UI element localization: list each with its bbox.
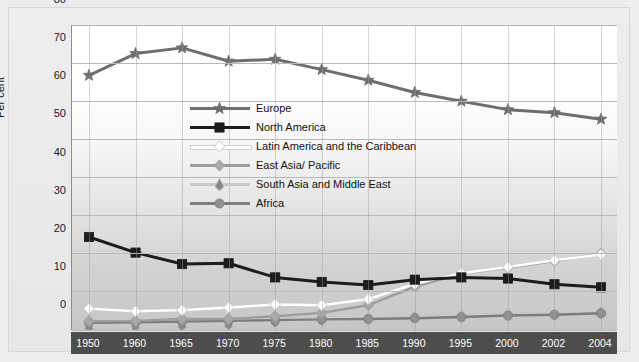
- y-tick-label: 80: [32, 0, 66, 5]
- legend-key-circle-icon: [190, 195, 250, 211]
- y-tick-label: 0: [32, 299, 66, 310]
- vertical-gridline: [136, 25, 137, 330]
- legend-label: North America: [250, 121, 326, 133]
- x-tick-label: 1975: [249, 336, 299, 350]
- x-tick-label: 1995: [435, 336, 485, 350]
- legend-item[interactable]: North America: [190, 117, 430, 136]
- legend-key-star-icon: [190, 100, 250, 116]
- legend-label: South Asia and Middle East: [250, 178, 391, 190]
- legend-key-square-icon: [190, 119, 250, 135]
- legend-key-diamond-icon: [190, 138, 250, 154]
- gridline: [72, 215, 617, 216]
- gridline: [72, 291, 617, 292]
- chart-figure: 01020304050607080 Per cent 1950196019651…: [0, 0, 639, 362]
- series-line: [89, 237, 601, 287]
- y-axis-title: Per cent: [0, 77, 6, 118]
- x-tick-label: 1965: [156, 336, 206, 350]
- series-north-america: [84, 232, 605, 292]
- vertical-gridline: [182, 25, 183, 330]
- vertical-gridline: [554, 25, 555, 330]
- x-tick-label: 1960: [110, 336, 160, 350]
- gridline: [72, 63, 617, 64]
- gridline: [72, 330, 617, 331]
- y-tick-label: 40: [32, 147, 66, 158]
- legend-label: Latin America and the Caribbean: [250, 140, 416, 152]
- x-tick-label: 1980: [296, 336, 346, 350]
- vertical-gridline: [461, 25, 462, 330]
- legend-item[interactable]: Latin America and the Caribbean: [190, 136, 430, 155]
- y-tick-label: 70: [32, 32, 66, 43]
- x-tick-label: 1990: [389, 336, 439, 350]
- y-tick-label: 20: [32, 223, 66, 234]
- x-tick-label: 2000: [482, 336, 532, 350]
- y-tick-label: 50: [32, 108, 66, 119]
- x-tick-label: 1950: [63, 336, 113, 350]
- vertical-gridline: [89, 25, 90, 330]
- series-line: [89, 313, 601, 323]
- x-tick-label: 2004: [575, 336, 625, 350]
- legend-label: Africa: [250, 197, 284, 209]
- legend-item[interactable]: South Asia and Middle East: [190, 174, 430, 193]
- legend-marker-icon: [212, 158, 227, 173]
- x-tick-label: 1985: [342, 336, 392, 350]
- legend-key-diamond-icon: [190, 157, 250, 173]
- legend-label: East Asia/ Pacific: [250, 159, 340, 171]
- vertical-gridline: [508, 25, 509, 330]
- legend-marker-icon: [212, 120, 227, 135]
- legend-marker-icon: [212, 177, 227, 192]
- legend-marker-icon: [212, 196, 227, 211]
- gridline: [72, 253, 617, 254]
- y-tick-label: 10: [32, 261, 66, 272]
- legend-item[interactable]: Europe: [190, 98, 430, 117]
- legend-item[interactable]: East Asia/ Pacific: [190, 155, 430, 174]
- legend: EuropeNorth AmericaLatin America and the…: [190, 98, 430, 212]
- legend-label: Europe: [250, 102, 291, 114]
- legend-key-triangle-icon: [190, 176, 250, 192]
- legend-marker-icon: [212, 139, 227, 154]
- legend-item[interactable]: Africa: [190, 193, 430, 212]
- y-axis: 01020304050607080: [30, 0, 66, 305]
- gridline: [72, 25, 617, 26]
- x-tick-label: 2002: [528, 336, 578, 350]
- vertical-gridline: [601, 25, 602, 330]
- x-axis: 1950196019651970197519801985199019952000…: [71, 332, 617, 354]
- y-tick-label: 60: [32, 70, 66, 81]
- x-tick-label: 1970: [203, 336, 253, 350]
- y-tick-label: 30: [32, 185, 66, 196]
- legend-marker-icon: [212, 101, 227, 116]
